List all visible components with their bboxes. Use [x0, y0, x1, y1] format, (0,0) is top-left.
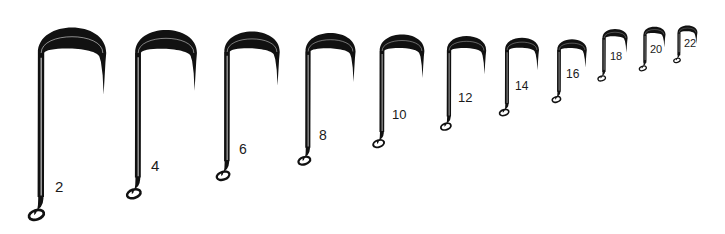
hook-size-14-eye — [499, 108, 510, 116]
hook-size-22-eye — [673, 57, 681, 63]
hook-size-6 — [216, 31, 280, 181]
hook-size-10 — [372, 35, 424, 149]
hook-size-18-eye — [597, 75, 606, 82]
hook-size-20-eye — [639, 65, 647, 71]
hook-size-chart: 246810121416182022 — [0, 0, 725, 234]
hook-size-2-bend — [38, 27, 107, 197]
hook-illustrations — [0, 0, 725, 234]
hook-size-4 — [126, 30, 197, 200]
hook-size-16-bend — [557, 39, 587, 92]
hook-size-2-shank — [34, 53, 44, 215]
hook-size-6-eye — [216, 170, 231, 181]
hook-size-label-14: 14 — [515, 80, 528, 92]
hook-size-14 — [499, 38, 539, 117]
hook-size-12-eye — [440, 122, 452, 131]
hook-size-4-eye — [126, 188, 142, 200]
hook-size-2 — [28, 27, 107, 221]
hook-size-label-6: 6 — [239, 142, 247, 156]
hook-size-22-shank — [676, 33, 680, 61]
hook-size-6-shank — [221, 52, 229, 176]
hook-size-16-eye — [552, 96, 562, 104]
hook-size-8 — [297, 33, 355, 166]
hook-size-8-shank — [303, 52, 311, 161]
hook-size-label-18: 18 — [610, 51, 622, 62]
hook-size-18-shank — [601, 38, 606, 79]
hook-size-label-8: 8 — [319, 128, 327, 142]
hook-size-label-16: 16 — [566, 68, 579, 80]
hook-size-label-22: 22 — [684, 38, 696, 49]
hook-size-14-bend — [505, 38, 539, 104]
hook-size-label-2: 2 — [55, 179, 63, 194]
hook-size-16-shank — [555, 50, 560, 100]
hook-size-20-shank — [642, 35, 646, 69]
hook-size-label-4: 4 — [151, 158, 159, 173]
hook-size-8-bend — [305, 33, 355, 148]
hook-size-10-shank — [377, 51, 384, 144]
hook-size-2-eye — [28, 208, 45, 221]
hook-size-label-20: 20 — [650, 44, 662, 55]
hook-size-14-shank — [503, 50, 509, 113]
hook-size-8-eye — [297, 155, 311, 166]
hook-size-4-bend — [135, 30, 197, 178]
hook-size-4-shank — [132, 53, 141, 194]
hook-size-6-bend — [224, 31, 280, 161]
hook-size-12-shank — [444, 51, 450, 127]
hook-size-label-10: 10 — [392, 108, 406, 121]
hook-size-label-12: 12 — [458, 91, 472, 104]
hook-size-10-eye — [372, 139, 385, 149]
hook-size-12 — [440, 36, 486, 131]
